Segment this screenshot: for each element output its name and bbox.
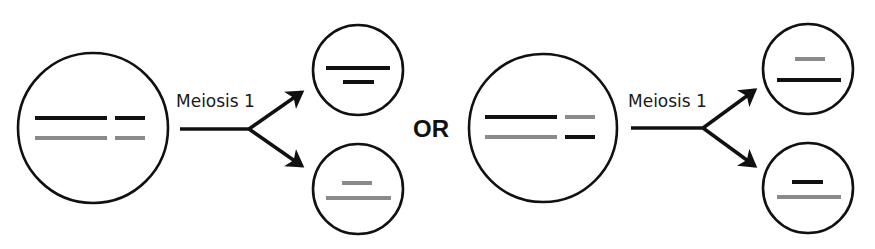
scenario-2: Meiosis 1	[469, 24, 853, 233]
parent-cell-right	[469, 54, 617, 202]
or-separator: OR	[413, 115, 449, 142]
parent-cell-left	[18, 53, 168, 203]
daughter-cell-top-left	[313, 25, 403, 115]
daughter-cell-top-right	[763, 24, 853, 114]
daughter-cell-bottom-left	[313, 144, 403, 234]
scenario-1: Meiosis 1	[18, 25, 403, 234]
division-arrow-right: Meiosis 1	[628, 90, 755, 166]
arrow-down-icon	[249, 129, 302, 166]
arrow-up-icon	[703, 90, 755, 128]
meiosis-label-right: Meiosis 1	[628, 91, 707, 111]
arrow-up-icon	[249, 92, 302, 129]
arrow-down-icon	[703, 128, 755, 166]
division-arrow-left: Meiosis 1	[176, 91, 302, 166]
daughter-cell-bottom-right	[763, 143, 853, 233]
meiosis-label-left: Meiosis 1	[176, 91, 255, 111]
meiosis-diagram: Meiosis 1 OR	[0, 0, 875, 249]
